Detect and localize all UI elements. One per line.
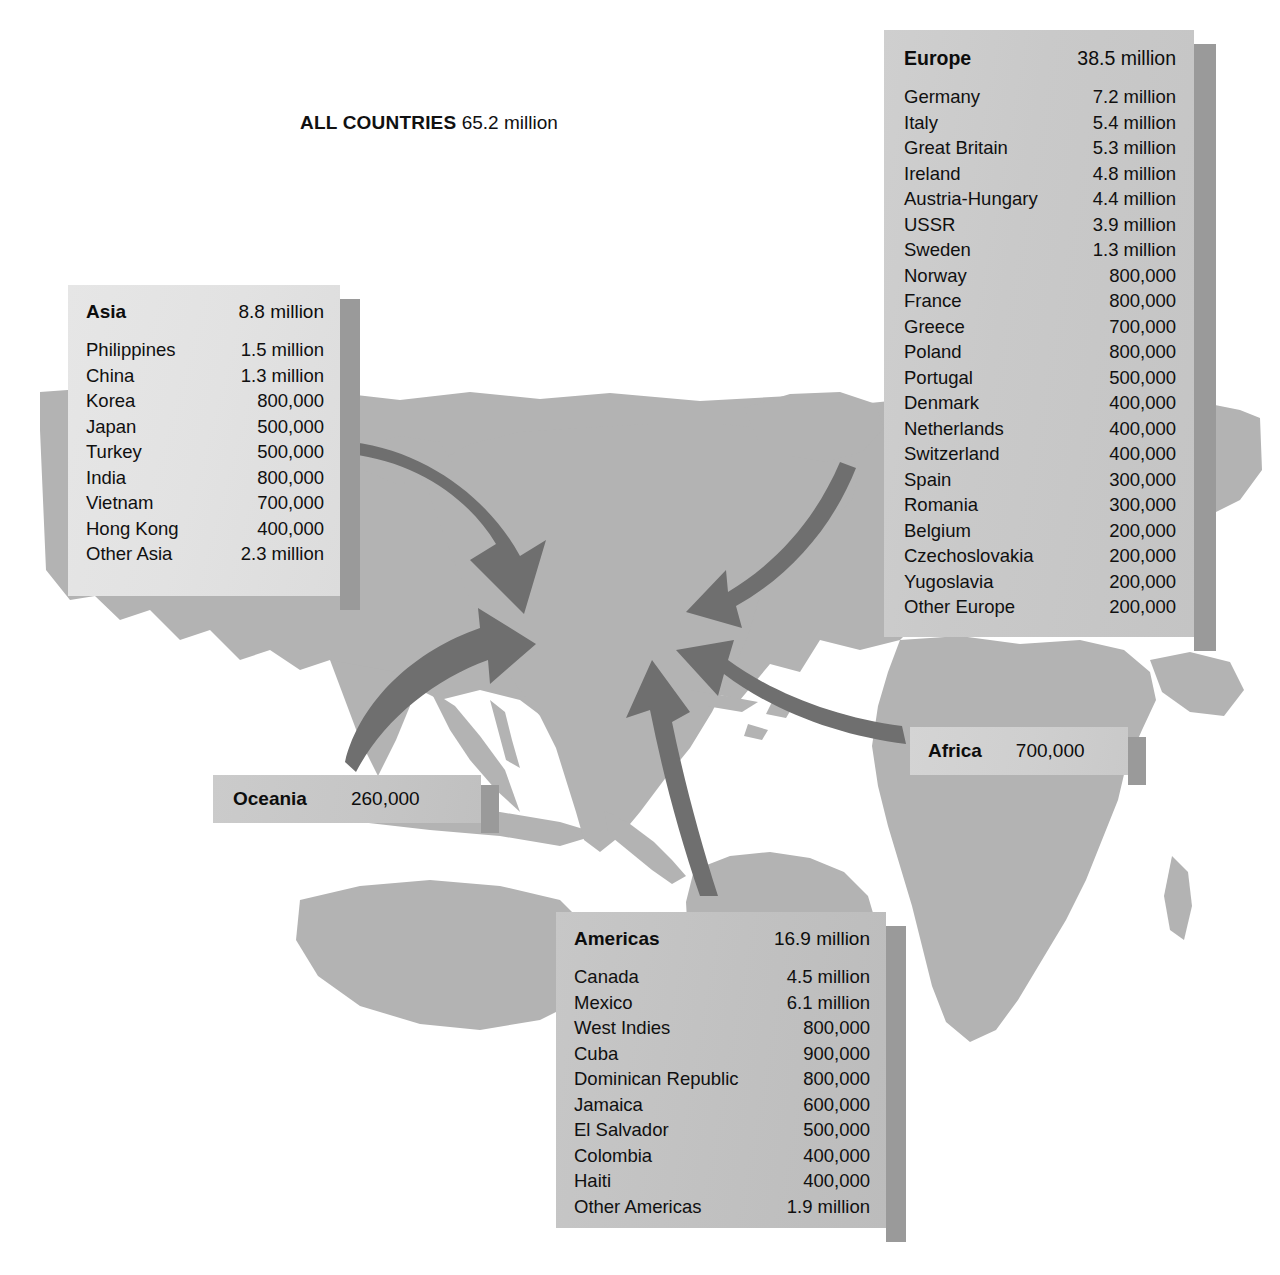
- panel-europe[interactable]: Europe 38.5 million Germany7.2 millionIt…: [884, 30, 1194, 637]
- country-row: Other Americas1.9 million: [574, 1194, 870, 1220]
- country-value: 1.5 million: [241, 337, 324, 363]
- country-value: 400,000: [1109, 416, 1176, 442]
- panel-americas-rows: Canada4.5 millionMexico6.1 millionWest I…: [574, 964, 870, 1219]
- country-value: 4.4 million: [1093, 186, 1176, 212]
- panel-europe-total: 38.5 million: [1077, 47, 1176, 70]
- country-row: Canada4.5 million: [574, 964, 870, 990]
- country-name: Germany: [904, 84, 980, 110]
- all-countries-label: ALL COUNTRIES: [300, 112, 456, 133]
- panel-asia-title: Asia: [86, 301, 126, 323]
- country-row: Ireland4.8 million: [904, 161, 1176, 187]
- panel-americas[interactable]: Americas 16.9 million Canada4.5 millionM…: [556, 912, 886, 1228]
- arrow-europe-to-north-america: [686, 462, 856, 628]
- panel-oceania-shadow: [481, 785, 499, 833]
- country-value: 800,000: [1109, 288, 1176, 314]
- country-name: Dominican Republic: [574, 1066, 739, 1092]
- country-row: India800,000: [86, 465, 324, 491]
- country-value: 6.1 million: [787, 990, 870, 1016]
- panel-americas-total: 16.9 million: [774, 928, 870, 950]
- country-row: Jamaica600,000: [574, 1092, 870, 1118]
- country-row: Austria-Hungary4.4 million: [904, 186, 1176, 212]
- country-value: 600,000: [803, 1092, 870, 1118]
- country-row: Haiti400,000: [574, 1168, 870, 1194]
- country-name: Czechoslovakia: [904, 543, 1034, 569]
- country-value: 300,000: [1109, 467, 1176, 493]
- country-row: Other Asia2.3 million: [86, 541, 324, 567]
- country-name: Poland: [904, 339, 962, 365]
- country-value: 700,000: [1109, 314, 1176, 340]
- panel-africa-title: Africa: [928, 740, 982, 762]
- country-value: 5.3 million: [1093, 135, 1176, 161]
- country-row: Romania300,000: [904, 492, 1176, 518]
- panel-asia-body: Asia 8.8 million Philippines1.5 millionC…: [68, 285, 340, 596]
- country-row: El Salvador500,000: [574, 1117, 870, 1143]
- country-row: Greece700,000: [904, 314, 1176, 340]
- panel-asia[interactable]: Asia 8.8 million Philippines1.5 millionC…: [68, 285, 340, 596]
- panel-oceania[interactable]: Oceania 260,000: [213, 775, 481, 823]
- panel-europe-body: Europe 38.5 million Germany7.2 millionIt…: [884, 30, 1194, 637]
- country-row: Turkey500,000: [86, 439, 324, 465]
- country-value: 200,000: [1109, 594, 1176, 620]
- panel-africa-header: Africa 700,000: [928, 740, 1112, 762]
- country-value: 400,000: [1109, 390, 1176, 416]
- country-name: Hong Kong: [86, 516, 179, 542]
- panel-asia-total: 8.8 million: [238, 301, 324, 323]
- all-countries-value: 65.2 million: [462, 112, 558, 133]
- arrow-africa-to-north-america: [676, 640, 906, 744]
- country-value: 800,000: [257, 388, 324, 414]
- country-name: Cuba: [574, 1041, 618, 1067]
- country-name: El Salvador: [574, 1117, 669, 1143]
- country-value: 900,000: [803, 1041, 870, 1067]
- panel-africa-shadow: [1128, 737, 1146, 785]
- country-value: 700,000: [257, 490, 324, 516]
- country-row: Cuba900,000: [574, 1041, 870, 1067]
- country-row: Japan500,000: [86, 414, 324, 440]
- country-value: 800,000: [257, 465, 324, 491]
- country-name: Switzerland: [904, 441, 1000, 467]
- panel-oceania-header: Oceania 260,000: [233, 788, 463, 810]
- country-row: Spain300,000: [904, 467, 1176, 493]
- country-row: Colombia400,000: [574, 1143, 870, 1169]
- panel-europe-shadow: [1194, 44, 1216, 651]
- country-value: 500,000: [257, 414, 324, 440]
- country-value: 200,000: [1109, 518, 1176, 544]
- all-countries-title: ALL COUNTRIES 65.2 million: [300, 112, 558, 134]
- arrow-americas-to-north-america: [626, 660, 718, 896]
- panel-americas-body: Americas 16.9 million Canada4.5 millionM…: [556, 912, 886, 1228]
- country-value: 500,000: [803, 1117, 870, 1143]
- country-row: Other Europe200,000: [904, 594, 1176, 620]
- country-name: Haiti: [574, 1168, 611, 1194]
- country-row: Great Britain5.3 million: [904, 135, 1176, 161]
- panel-europe-title: Europe: [904, 47, 971, 70]
- country-name: Jamaica: [574, 1092, 643, 1118]
- panel-americas-title: Americas: [574, 928, 660, 950]
- panel-europe-header: Europe 38.5 million: [904, 47, 1176, 70]
- country-name: Colombia: [574, 1143, 652, 1169]
- country-name: Other Americas: [574, 1194, 702, 1220]
- country-name: Greece: [904, 314, 965, 340]
- country-row: Sweden1.3 million: [904, 237, 1176, 263]
- country-row: West Indies800,000: [574, 1015, 870, 1041]
- country-value: 400,000: [1109, 441, 1176, 467]
- panel-oceania-body: Oceania 260,000: [213, 775, 481, 823]
- country-row: USSR3.9 million: [904, 212, 1176, 238]
- country-value: 4.8 million: [1093, 161, 1176, 187]
- panel-asia-rows: Philippines1.5 millionChina1.3 millionKo…: [86, 337, 324, 567]
- country-name: India: [86, 465, 126, 491]
- country-value: 400,000: [803, 1168, 870, 1194]
- panel-asia-shadow: [340, 299, 360, 610]
- country-row: Italy5.4 million: [904, 110, 1176, 136]
- country-value: 1.3 million: [241, 363, 324, 389]
- country-name: Ireland: [904, 161, 961, 187]
- country-row: Denmark400,000: [904, 390, 1176, 416]
- country-row: Philippines1.5 million: [86, 337, 324, 363]
- country-name: Belgium: [904, 518, 971, 544]
- country-value: 800,000: [803, 1066, 870, 1092]
- country-value: 400,000: [803, 1143, 870, 1169]
- country-name: France: [904, 288, 962, 314]
- country-value: 800,000: [803, 1015, 870, 1041]
- country-name: Great Britain: [904, 135, 1008, 161]
- country-name: Other Europe: [904, 594, 1015, 620]
- arrow-oceania-to-north-america: [345, 608, 536, 772]
- panel-africa[interactable]: Africa 700,000: [910, 727, 1128, 775]
